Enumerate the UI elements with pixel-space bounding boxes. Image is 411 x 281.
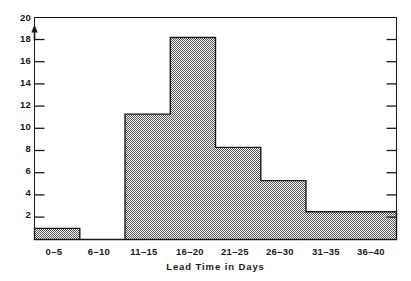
y-tick-label: 14	[5, 78, 31, 88]
y-tick-label: 4	[5, 188, 31, 198]
y-tick-label: 2	[5, 210, 31, 220]
y-tick-label: 18	[5, 34, 31, 44]
plot-frame	[34, 17, 397, 240]
y-axis-tick-labels: 20 18 16 14 12 10 8 6 4 2	[0, 0, 31, 281]
y-tick-label: 6	[5, 166, 31, 176]
y-tick-label: 20	[5, 13, 31, 23]
x-tick-label: 36–40	[344, 246, 398, 257]
x-axis-title: Lead Time in Days	[34, 261, 397, 272]
y-tick-label: 10	[5, 122, 31, 132]
y-tick-label: 8	[5, 144, 31, 154]
y-tick-label: 16	[5, 56, 31, 66]
x-axis-tick-labels: 0–5 6–10 11–15 16–20 21–25 26–30 31–35 3…	[34, 246, 397, 260]
histogram-chart: 20 18 16 14 12 10 8 6 4 2	[0, 0, 411, 281]
y-tick-label: 12	[5, 100, 31, 110]
